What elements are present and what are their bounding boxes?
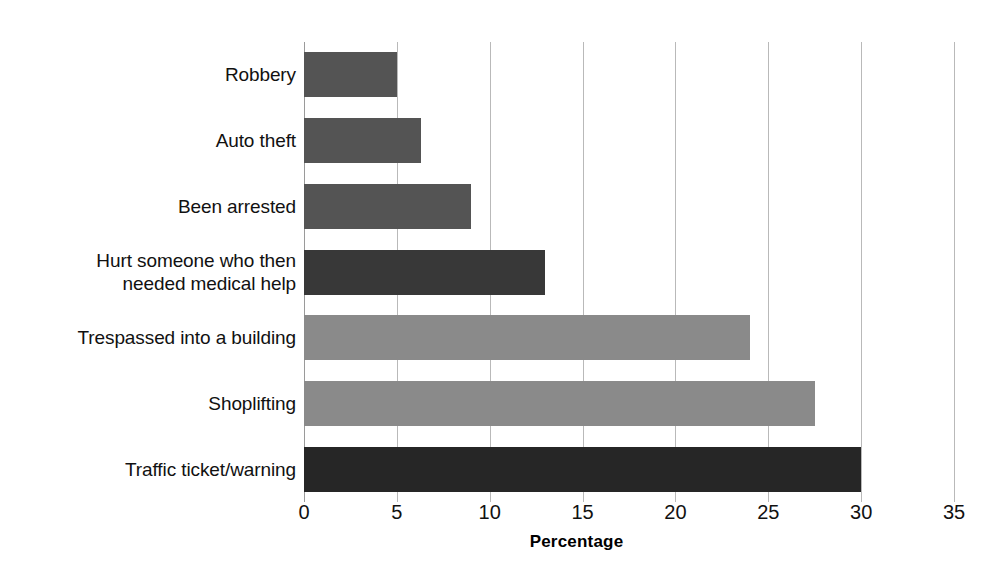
- gridline-35: [954, 42, 955, 502]
- category-label: Traffic ticket/warning: [0, 458, 296, 481]
- bar: [304, 184, 471, 229]
- category-label-line: Shoplifting: [0, 392, 296, 415]
- x-tick-label-30: 30: [831, 499, 891, 525]
- x-axis-title-text: Percentage: [530, 532, 624, 551]
- bar-series: [304, 42, 954, 502]
- category-label-line: Hurt someone who then: [0, 249, 296, 272]
- category-label: Hurt someone who thenneeded medical help: [0, 249, 296, 295]
- category-label: Shoplifting: [0, 392, 296, 415]
- category-label-line: Been arrested: [0, 195, 296, 218]
- x-axis-title: Percentage: [0, 532, 1001, 552]
- category-label: Auto theft: [0, 129, 296, 152]
- category-axis-labels: RobberyAuto theftBeen arrestedHurt someo…: [0, 42, 296, 502]
- x-tick-label-10: 10: [460, 499, 520, 525]
- category-label: Been arrested: [0, 195, 296, 218]
- category-label-line: Trespassed into a building: [0, 326, 296, 349]
- category-label: Trespassed into a building: [0, 326, 296, 349]
- category-label-line: Auto theft: [0, 129, 296, 152]
- category-label: Robbery: [0, 63, 296, 86]
- bar-chart-figure: RobberyAuto theftBeen arrestedHurt someo…: [0, 0, 1001, 583]
- category-label-line: needed medical help: [0, 272, 296, 295]
- x-tick-label-15: 15: [553, 499, 613, 525]
- category-label-line: Traffic ticket/warning: [0, 458, 296, 481]
- x-axis-tick-labels: 05101520253035: [0, 499, 1001, 529]
- bar: [304, 315, 750, 360]
- bar: [304, 381, 815, 426]
- category-label-line: Robbery: [0, 63, 296, 86]
- x-tick-label-35: 35: [924, 499, 984, 525]
- x-tick-label-25: 25: [738, 499, 798, 525]
- bar: [304, 52, 397, 97]
- x-tick-label-20: 20: [645, 499, 705, 525]
- bar: [304, 250, 545, 295]
- x-tick-label-0: 0: [274, 499, 334, 525]
- bar: [304, 118, 421, 163]
- x-tick-label-5: 5: [367, 499, 427, 525]
- bar: [304, 447, 861, 492]
